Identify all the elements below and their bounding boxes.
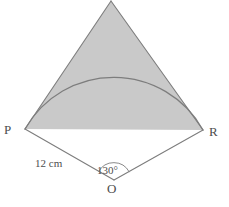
radius-or: [114, 130, 203, 180]
angle-label: 130°: [97, 164, 118, 176]
vertex-label-r: R: [209, 124, 218, 140]
vertex-label-p: P: [4, 122, 11, 138]
vertex-label-o: O: [107, 181, 116, 197]
radius-length-label: 12 cm: [35, 157, 62, 169]
shaded-triangle-region: [25, 1, 203, 130]
